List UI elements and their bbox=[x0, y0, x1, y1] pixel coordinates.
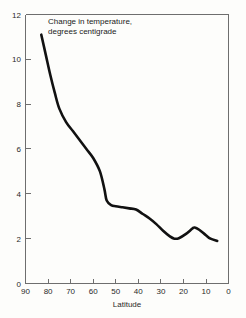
x-tick-label: 30 bbox=[156, 287, 165, 296]
x-axis-title: Latitude bbox=[113, 300, 142, 309]
plot-frame bbox=[26, 15, 229, 284]
axis-frame-path bbox=[26, 15, 229, 284]
y-tick-label: 8 bbox=[17, 100, 22, 109]
x-axis-ticks: 90 80 70 60 50 40 30 20 10 0 bbox=[21, 279, 231, 297]
x-tick-label: 70 bbox=[66, 287, 75, 296]
x-tick-label: 60 bbox=[89, 287, 98, 296]
x-tick-label: 90 bbox=[21, 287, 30, 296]
chart-figure: 0 2 4 6 8 10 12 90 80 70 60 50 bbox=[0, 0, 246, 318]
annotation-line-2: degrees centigrade bbox=[48, 27, 117, 36]
y-tick-label: 4 bbox=[17, 190, 22, 199]
x-tick-label: 80 bbox=[44, 287, 53, 296]
y-tick-label: 6 bbox=[17, 145, 22, 154]
temperature-change-curve bbox=[41, 35, 217, 241]
x-tick-label: 50 bbox=[111, 287, 120, 296]
x-tick-label: 20 bbox=[179, 287, 188, 296]
annotation-line-1: Change in temperature, bbox=[48, 17, 132, 26]
y-tick-label: 12 bbox=[12, 11, 21, 20]
y-tick-label: 2 bbox=[17, 235, 22, 244]
x-tick-label: 40 bbox=[134, 287, 143, 296]
chart-canvas: 0 2 4 6 8 10 12 90 80 70 60 50 bbox=[0, 0, 246, 318]
x-tick-label: 10 bbox=[202, 287, 211, 296]
y-axis-ticks: 0 2 4 6 8 10 12 bbox=[12, 11, 30, 289]
y-tick-label: 10 bbox=[12, 55, 21, 64]
chart-annotation: Change in temperature, degrees centigrad… bbox=[48, 17, 132, 36]
x-tick-label: 0 bbox=[226, 287, 231, 296]
